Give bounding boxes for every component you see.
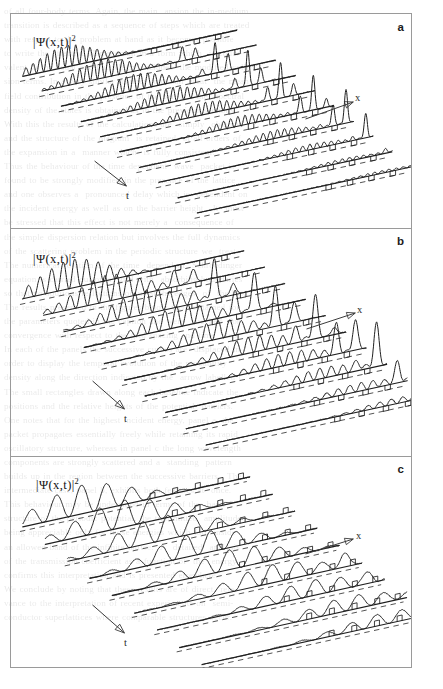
figure-frame: |Ψ(x,t)|2 a x t |Ψ(x,t)|2 b x t |Ψ(x,t)|…	[10, 13, 412, 668]
panel-b-y-axis-label: |Ψ(x,t)|2	[33, 251, 76, 267]
panel-b-x-axis-label: x	[357, 304, 362, 315]
panel-label-c: c	[398, 463, 404, 475]
panel-label-b: b	[397, 235, 404, 247]
panel-c-x-axis-label: x	[356, 530, 361, 541]
panel-c: |Ψ(x,t)|2 c x t	[11, 457, 411, 668]
panel-c-y-axis-label-exponent: 2	[75, 477, 79, 486]
panel-a-y-axis-label-text: |Ψ(x,t)|	[33, 35, 72, 49]
panel-b-y-axis-label-exponent: 2	[72, 251, 76, 260]
panel-c-y-axis-label-text: |Ψ(x,t)|	[36, 478, 75, 492]
panel-a-y-axis-label-exponent: 2	[72, 34, 76, 43]
panel-a-x-axis-label: x	[355, 92, 360, 103]
panel-c-t-axis-label: t	[124, 637, 127, 648]
panel-b: |Ψ(x,t)|2 b x t	[11, 229, 411, 456]
panel-a-t-axis-label: t	[126, 190, 129, 201]
panel-b-y-axis-label-text: |Ψ(x,t)|	[33, 252, 72, 266]
panel-b-t-axis-label: t	[124, 413, 127, 424]
panel-a-y-axis-label: |Ψ(x,t)|2	[33, 34, 76, 50]
panel-c-y-axis-label: |Ψ(x,t)|2	[36, 477, 79, 493]
panel-a: |Ψ(x,t)|2 a x t	[11, 14, 411, 228]
panel-label-a: a	[398, 21, 404, 33]
